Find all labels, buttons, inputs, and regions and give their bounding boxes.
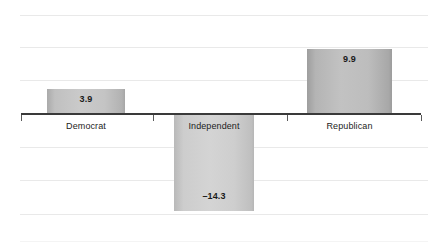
category-label-democrat: Democrat xyxy=(47,121,125,131)
value-label-independent: –14.3 xyxy=(174,191,254,201)
value-label-democrat: 3.9 xyxy=(47,94,125,104)
axis-tick-2 xyxy=(287,115,288,121)
axis-tick-1 xyxy=(153,115,154,121)
bar-chart: 3.9–14.39.9 DemocratIndependentRepublica… xyxy=(0,0,434,246)
gridline-5 xyxy=(20,214,428,215)
value-label-republican: 9.9 xyxy=(307,54,392,64)
gridline-0 xyxy=(20,15,428,16)
gridline-6 xyxy=(20,241,428,242)
axis-tick-0 xyxy=(21,115,22,121)
gridline-1 xyxy=(20,47,428,48)
category-label-republican: Republican xyxy=(307,121,392,131)
axis-tick-3 xyxy=(421,115,422,121)
zero-axis-line xyxy=(21,113,421,115)
category-label-independent: Independent xyxy=(174,121,254,131)
